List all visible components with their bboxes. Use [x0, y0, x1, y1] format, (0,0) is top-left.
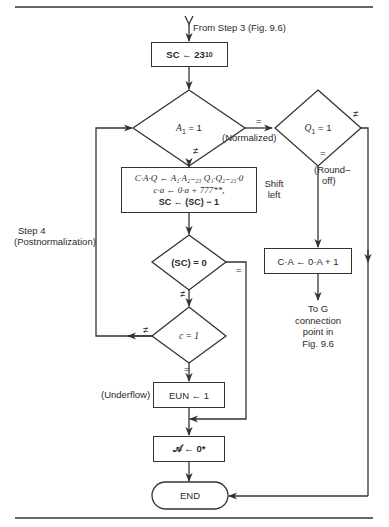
exit-label: To G connection point in Fig. 9.6: [283, 303, 353, 349]
init-sc-subscript: 10: [205, 51, 213, 58]
entry-label: From Step 3 (Fig. 9.6): [193, 22, 286, 33]
normalized-label: (Normalized): [222, 132, 276, 143]
entry-fork-icon: [185, 16, 193, 24]
decision-a1-label: A1 = 1: [150, 122, 228, 137]
roundoff-box: C·A ← 0·A + 1: [264, 248, 352, 274]
shift-label-line1: Shift: [259, 178, 289, 189]
roundoff-label-line2: off): [322, 175, 336, 186]
edge-c1-neq-label: ≠: [143, 324, 148, 335]
decision-c1-label: c = 1: [160, 331, 218, 342]
exit-label-line4: Fig. 9.6: [283, 338, 353, 350]
step-label-line2: (Postnormalization): [14, 236, 96, 247]
exit-label-line1: To G: [283, 303, 353, 315]
edge-q1-neq-label: ≠: [353, 108, 358, 119]
decision-a1-rest: = 1: [186, 122, 202, 133]
edge-a1-neq-label: ≠: [193, 145, 198, 156]
edge-sc0-neq-label: ≠: [180, 288, 185, 299]
roundoff-label-line1: (Round–: [314, 164, 350, 175]
step-label-line1: Step 4: [18, 225, 45, 236]
shift-left-box: C·A·Q ← A₁·A₂₋₂₃ Q₁·Q₂₋₂₃·0 c·a ← 0·a + …: [121, 167, 257, 213]
zero-result-box: 𝒜 ← 0*: [153, 436, 225, 462]
decision-sc0-label: (SC) = 0: [158, 257, 220, 268]
shift-line2: c·a ← 0·a + 777**,: [154, 184, 225, 196]
end-label: END: [152, 490, 228, 501]
init-sc-box: SC ← 2310: [151, 42, 228, 67]
shift-line1: C·A·Q ← A₁·A₂₋₂₃ Q₁·Q₂₋₂₃·0: [135, 172, 243, 184]
edge-q1-eq-label: =: [320, 147, 326, 158]
shift-line3: SC ← (SC) − 1: [159, 196, 219, 208]
underflow-label: (Underflow): [101, 389, 150, 400]
underflow-text: EUN ← 1: [169, 390, 209, 401]
shift-label-line2: left: [259, 189, 289, 200]
edge-sc0-eq-label: =: [236, 264, 242, 275]
roundoff-text: C·A ← 0·A + 1: [278, 256, 339, 267]
edge-c1-eq-label: =: [184, 363, 190, 374]
underflow-box: EUN ← 1: [153, 382, 225, 408]
edge-a1-eq-label: =: [256, 115, 262, 126]
zero-result-text: 𝒜 ← 0*: [173, 443, 206, 455]
decision-q1-label: Q1 = 1: [285, 122, 351, 137]
decision-q1-rest: = 1: [315, 122, 331, 133]
init-sc-text: SC ← 23: [166, 49, 205, 60]
exit-label-line2: connection: [283, 315, 353, 327]
exit-label-line3: point in: [283, 326, 353, 338]
